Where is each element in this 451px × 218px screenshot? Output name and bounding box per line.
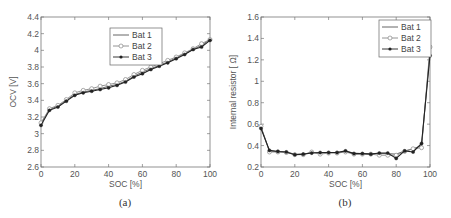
x-tick-label: 40 [324,169,334,179]
figure-caption: (b) [339,196,352,209]
data-point [73,94,76,97]
data-point [268,149,271,152]
y-tick-label: 3.6 [27,79,39,89]
data-point [107,83,111,87]
data-point [98,84,102,88]
data-point [140,68,144,72]
legend-label: Bat 3 [401,44,421,54]
data-point [420,142,423,145]
data-point [99,88,102,91]
data-point [378,151,381,154]
data-point [166,61,169,64]
data-point [302,153,305,156]
data-point [90,90,93,93]
y-tick-label: 4.4 [27,12,39,22]
data-point [82,91,85,94]
figure-caption: (a) [119,196,132,209]
legend: Bat 1Bat 2Bat 3 [110,28,162,65]
y-tick-label: 0.2 [247,162,259,172]
legend-marker [388,36,392,40]
x-tick-label: 40 [104,169,114,179]
data-point [107,86,110,89]
x-axis-label: SOC [%] [109,179,142,189]
data-point [200,45,203,48]
data-point [293,153,296,156]
data-point [310,151,313,154]
x-tick-label: 20 [290,169,300,179]
y-tick-label: 0.6 [247,119,259,129]
data-point [149,68,152,71]
y-tick-label: 0.8 [247,98,259,108]
data-point [319,151,322,154]
y-tick-label: 1 [254,76,259,86]
data-point [56,105,59,108]
legend-label: Bat 3 [132,52,152,62]
data-point [183,53,186,56]
y-axis-label: Internal resistor [ Ω] [228,55,238,129]
data-point [192,48,195,51]
data-point [335,151,338,154]
legend-marker [388,47,391,50]
legend-label: Bat 1 [132,30,152,40]
y-tick-label: 2.6 [27,162,39,172]
data-point [412,150,415,153]
chart-a: 0204060801002.62.833.23.43.63.844.24.4SO… [8,12,217,209]
x-tick-label: 100 [423,169,437,179]
data-point [420,146,424,150]
data-point [141,72,144,75]
data-point [285,150,288,153]
data-point [200,42,204,46]
data-point [369,153,372,156]
y-tick-label: 2.8 [27,145,39,155]
y-tick-label: 0.4 [247,141,259,151]
data-point [115,84,118,87]
y-tick-label: 4.2 [27,29,39,39]
chart-b: 0204060801000.20.40.60.811.21.41.6SOC [%… [228,12,437,209]
data-point [327,151,330,154]
data-point [386,151,389,154]
x-tick-label: 80 [391,169,401,179]
data-point [352,152,355,155]
x-tick-label: 0 [39,169,44,179]
x-tick-label: 60 [138,169,148,179]
legend-label: Bat 1 [401,22,421,32]
legend-marker [119,55,122,58]
x-tick-label: 60 [358,169,368,179]
y-tick-label: 3.2 [27,112,39,122]
data-point [175,57,178,60]
legend-marker [119,44,123,48]
data-point [361,152,364,155]
data-point [403,149,406,152]
data-point [65,100,68,103]
legend-label: Bat 2 [132,41,152,51]
data-point [395,157,398,160]
y-axis-label: OCV [V] [8,76,18,107]
y-tick-label: 1.6 [247,12,259,22]
legend-label: Bat 2 [401,33,421,43]
x-tick-label: 80 [171,169,181,179]
figure: 0204060801002.62.833.23.43.63.844.24.4SO… [0,0,451,218]
legend: Bat 1Bat 2Bat 3 [379,20,431,57]
data-point [39,124,42,127]
y-tick-label: 3.4 [27,95,39,105]
y-tick-label: 1.2 [247,55,259,65]
data-point [259,127,262,130]
data-point [132,75,135,78]
x-tick-label: 20 [70,169,80,179]
data-point [48,109,51,112]
data-point [276,150,279,153]
x-tick-label: 100 [203,169,217,179]
data-point [124,80,127,83]
y-tick-label: 4 [34,45,39,55]
x-axis-label: SOC [%] [329,179,362,189]
data-point [344,149,347,152]
y-tick-label: 1.4 [247,33,259,43]
data-point [208,39,211,42]
y-tick-label: 3 [34,129,39,139]
x-tick-label: 0 [259,169,264,179]
y-tick-label: 3.8 [27,62,39,72]
